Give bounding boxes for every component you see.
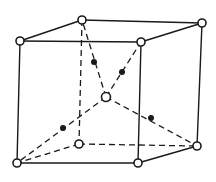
solid-edge [141, 23, 202, 42]
open-atom-icon [75, 140, 83, 148]
solid-edge [138, 146, 197, 163]
solid-edge [20, 41, 141, 42]
filled-atom-icon [148, 115, 154, 121]
open-atom-icon [16, 37, 24, 45]
open-atom-icon [137, 38, 145, 46]
open-atom-icon [134, 159, 142, 167]
open-atom-icon [13, 159, 21, 167]
solid-edge [82, 20, 202, 23]
dashed-edge [17, 144, 79, 163]
visible-edges [17, 20, 202, 163]
dashed-edge [82, 20, 106, 97]
open-atom-icon [78, 16, 86, 24]
filled-atom-icon [91, 59, 97, 65]
solid-edge [197, 23, 202, 146]
open-atom-icon [193, 142, 201, 150]
solid-edge [20, 20, 82, 41]
open-atom-icon [198, 19, 206, 27]
filled-atom-icon [60, 125, 66, 131]
open-atom-icon [102, 93, 111, 102]
unit-cell-svg [0, 0, 216, 182]
filled-atom-icon [119, 69, 125, 75]
dashed-edge [106, 97, 197, 146]
unit-cell-diagram [0, 0, 216, 182]
dashed-edge [79, 20, 82, 144]
solid-edge [17, 41, 20, 163]
